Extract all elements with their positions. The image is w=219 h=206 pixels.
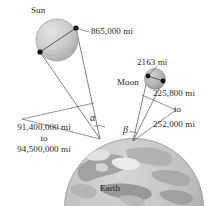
- sun-diameter-leader-line: [76, 28, 89, 32]
- alpha-angle-arc: [94, 125, 105, 127]
- moon-distance-leader-lines: [133, 95, 176, 141]
- moon-distance-line2: 252,000 mi: [153, 119, 195, 130]
- beta-angle-arc: [129, 132, 137, 133]
- moon-diameter-endpoint-dot: [161, 79, 166, 84]
- sun-diameter-label: 865,000 mi: [91, 26, 133, 37]
- moon-distance-conjunction: to: [174, 104, 181, 115]
- sun-diameter-endpoint-dot: [37, 49, 42, 54]
- sun-distance-line1: 91,400,000 mi: [2, 122, 86, 133]
- moon-distance-line1: 225,800 mi: [153, 88, 195, 99]
- sun-distance-line2: 94,500,000 mi: [2, 144, 86, 155]
- sun-label: Sun: [31, 5, 45, 16]
- beta-angle-label: β: [123, 124, 128, 135]
- moon-label: Moon: [117, 77, 139, 88]
- sun-body: [36, 19, 79, 61]
- astronomy-scale-diagram: Sun 865,000 mi 91,400,000 mi to 94,500,0…: [0, 0, 219, 206]
- moon-diameter-label: 2163 mi: [137, 57, 167, 68]
- alpha-angle-label: α: [90, 112, 95, 123]
- sun-distance-conjunction: to: [2, 133, 86, 144]
- moon-body: [145, 69, 166, 90]
- earth-label: Earth: [100, 183, 120, 194]
